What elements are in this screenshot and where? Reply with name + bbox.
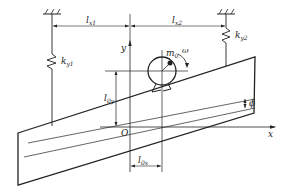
label-l0y: l0y	[104, 93, 115, 105]
label-lx2: lx2	[172, 15, 182, 26]
eccentric-mass-icon	[168, 61, 173, 66]
motor	[105, 50, 189, 127]
label-m0: m0	[166, 48, 179, 59]
right-ground-support	[217, 9, 235, 14]
label-x-axis: x	[268, 129, 273, 139]
left-ground-support	[43, 9, 61, 14]
label-ky2: ky2	[235, 30, 248, 42]
lx-dimension	[53, 14, 225, 40]
l0y-dimension	[115, 71, 118, 126]
label-lx1: lx1	[86, 15, 96, 26]
label-omega: ω	[182, 46, 189, 55]
diagram-canvas: lx1 lx2 ky1 ky2 y m0 ω l0y O l0x ϕ x	[0, 0, 290, 195]
left-spring	[47, 14, 56, 126]
label-l0x: l0x	[138, 155, 149, 166]
rotation-arrow-icon	[185, 63, 189, 68]
label-origin: O	[121, 128, 129, 138]
label-ky1: ky1	[61, 56, 74, 68]
label-phi: ϕ	[249, 98, 255, 108]
y-axis-arrow-icon	[128, 40, 131, 46]
label-y-axis: y	[120, 43, 127, 53]
right-spring	[222, 14, 230, 66]
